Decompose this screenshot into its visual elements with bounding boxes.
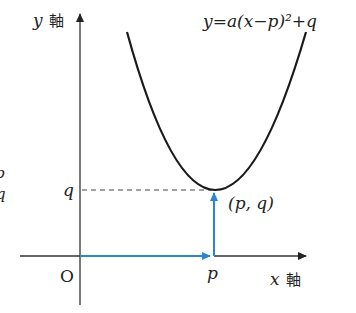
parabola-curve bbox=[127, 32, 306, 190]
vertex-label: (p, q) bbox=[228, 193, 274, 213]
x-axis-label: x軸 bbox=[270, 269, 301, 289]
equation-label: y=a(x−p)²+q bbox=[202, 11, 317, 31]
p-label: p bbox=[207, 263, 218, 283]
edge-fragment-p: p bbox=[0, 164, 5, 182]
q-label: q bbox=[63, 180, 74, 200]
origin-label: O bbox=[60, 266, 74, 286]
parabola-diagram: y軸 y=a(x−p)²+q q O p (p, q) x軸 p q bbox=[0, 0, 356, 313]
edge-fragment-q: q bbox=[0, 185, 6, 203]
y-axis-label: y軸 bbox=[32, 10, 64, 30]
